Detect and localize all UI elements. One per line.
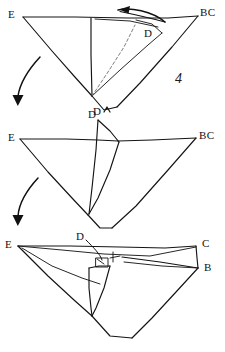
sketch-canvas [0,0,225,352]
bot-left-edge [18,246,92,316]
panel-bottom-vertex-label-e: E [5,239,12,250]
panel-middle-vertex-label-bc: BC [199,130,214,141]
mid-bottom-edge [88,215,112,228]
d-leader-line [86,240,102,260]
bot-flap-left-edge [89,268,92,316]
flap-edge-lower [92,33,162,96]
panel-bottom-vertex-label-c: C [202,238,210,249]
left-edge-e-to-bottom [23,17,92,96]
step-number: 4 [175,72,182,86]
vertical-crease-line [91,18,92,96]
mid-kite-upper-right-edge [98,120,119,142]
mid-left-edge [20,139,88,215]
panel-bottom-drawing [18,240,198,338]
transition-arrow-2-drawing [13,178,39,226]
transition-arrow-2-head [13,215,24,226]
origami-instruction-sheet: E BC D D 4 E BC D E C B D [0,0,225,352]
mid-right-edge [112,138,196,228]
transition-arrow-1-shaft [18,57,40,96]
bot-square-notch-mark [97,259,104,264]
bot-right-edge [132,268,198,338]
bot-square-to-right-link [110,256,120,258]
panel-bottom-vertex-label-d: D [76,231,84,242]
panel-top-vertex-label-e: E [8,9,15,20]
panel-top-vertex-label-d-flap: D [144,28,152,39]
dashed-crease-fold [92,25,135,96]
mid-top-edge-right [118,138,196,141]
bot-top-edge-e-to-c [18,246,196,248]
panel-top-drawing [23,6,198,112]
panel-middle-vertex-label-e: E [8,132,15,143]
panel-bottom-vertex-label-b: B [204,262,212,273]
mid-top-edge-left [20,139,118,141]
bot-layer-edge-to-b [124,262,198,268]
transition-arrow-1-drawing [13,57,41,106]
transition-arrow-2-shaft [18,178,38,216]
panel-middle-vertex-label-d: D [88,109,96,120]
transition-arrow-1-head [13,95,24,106]
bot-bottom-edge [92,316,132,338]
panel-middle-drawing [20,120,196,228]
top-edge-e-to-bc [23,16,198,18]
bot-edge-notch-to-b [122,257,198,268]
panel-top-vertex-label-bc: BC [200,7,215,18]
bot-flap-right-edge [92,266,110,316]
bot-edge-c-to-b [196,246,198,268]
bot-left-inner-edge [22,248,100,284]
